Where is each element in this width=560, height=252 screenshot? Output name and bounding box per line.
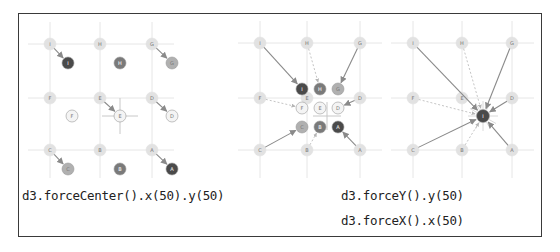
node-i: I (62, 57, 74, 69)
svg-text:I: I (301, 86, 302, 92)
node-c: C (296, 121, 308, 133)
ghost-node: D (146, 92, 158, 104)
ghost-node: A (506, 144, 518, 156)
node-f: F (66, 110, 78, 122)
ghost-node: H (456, 37, 468, 49)
ghost-node: H (94, 38, 106, 50)
ghost-node: D (354, 92, 366, 104)
svg-text:F: F (301, 105, 304, 111)
force-arrow (156, 102, 166, 111)
ghost-node: I (44, 38, 56, 50)
ghost-node: I (254, 37, 266, 49)
node-h: H (114, 57, 126, 69)
force-arrow (309, 49, 318, 82)
panel-force-xy-collapse: IHGFEDCBAI (391, 21, 534, 178)
svg-text:C: C (411, 147, 415, 153)
node-b: B (114, 163, 126, 175)
node-i: I (296, 83, 308, 95)
svg-text:G: G (150, 41, 154, 47)
svg-text:I: I (412, 40, 413, 46)
node-h: H (314, 83, 326, 95)
svg-text:E: E (318, 105, 321, 111)
force-arrow (266, 99, 295, 106)
ghost-node: C (254, 144, 266, 156)
ghost-node: D (506, 92, 518, 104)
svg-text:D: D (358, 95, 362, 101)
svg-text:F: F (49, 95, 52, 101)
svg-text:B: B (460, 147, 464, 153)
force-arrow (418, 119, 475, 147)
svg-text:H: H (98, 41, 102, 47)
svg-text:A: A (358, 147, 362, 153)
node-g: G (332, 83, 344, 95)
svg-text:B: B (318, 124, 322, 130)
svg-text:A: A (336, 124, 340, 130)
force-arrow (310, 133, 317, 145)
ghost-node: H (301, 37, 313, 49)
svg-text:C: C (258, 147, 262, 153)
svg-text:B: B (305, 147, 309, 153)
svg-text:A: A (150, 147, 154, 153)
node-d: D (332, 102, 344, 114)
svg-text:E: E (98, 95, 101, 101)
ghost-node: G (506, 37, 518, 49)
node-d: D (166, 110, 178, 122)
force-arrow (54, 154, 63, 164)
force-arrow (343, 132, 356, 146)
svg-text:I: I (49, 41, 50, 47)
svg-text:F: F (259, 95, 262, 101)
ghost-node: A (146, 144, 158, 156)
collapsed-node: I (477, 110, 490, 123)
node-e: E (114, 110, 126, 122)
force-arrow (156, 48, 167, 58)
svg-text:C: C (48, 147, 52, 153)
force-arrow (264, 47, 297, 83)
svg-text:G: G (170, 60, 174, 66)
svg-text:B: B (98, 147, 102, 153)
panel-force-center: IHGFEDCBAIHGFEDCBA (28, 22, 178, 178)
svg-text:F: F (412, 95, 415, 101)
svg-text:D: D (336, 105, 340, 111)
svg-text:G: G (358, 40, 362, 46)
starburst-ray (489, 120, 496, 124)
svg-text:B: B (118, 166, 122, 172)
node-g: G (166, 57, 178, 69)
ghost-node: I (407, 37, 419, 49)
svg-text:G: G (510, 40, 514, 46)
force-arrow (104, 102, 114, 111)
force-arrow (341, 48, 357, 82)
ghost-node: B (301, 144, 313, 156)
force-diagrams: IHGFEDCBAIHGFEDCBA IHGFEDCBAIHGFEDCBA IH… (0, 0, 560, 252)
force-arrow (156, 154, 167, 164)
ghost-node: F (44, 92, 56, 104)
svg-text:H: H (318, 86, 322, 92)
ghost-node: A (354, 144, 366, 156)
svg-text:E: E (118, 113, 121, 119)
svg-text:D: D (150, 95, 154, 101)
svg-text:A: A (510, 147, 514, 153)
panel-force-xy-cluster: IHGFEDCBAIHGFEDCBA (238, 21, 382, 178)
force-arrow (417, 47, 477, 110)
caption-force-center: d3.forceCenter().x(50).y(50) (22, 188, 224, 203)
node-a: A (166, 163, 178, 175)
ghost-node: F (254, 92, 266, 104)
force-arrow (490, 101, 507, 112)
caption-force-y: d3.forceY().y(50) (341, 188, 464, 203)
ghost-node: C (44, 144, 56, 156)
svg-text:D: D (510, 95, 514, 101)
svg-text:D: D (170, 113, 174, 119)
svg-text:I: I (259, 40, 260, 46)
svg-text:I: I (67, 60, 68, 66)
node-a: A (332, 121, 344, 133)
node-c: C (62, 163, 74, 175)
node-b: B (314, 121, 326, 133)
force-arrow (488, 122, 508, 145)
ghost-node: B (94, 144, 106, 156)
force-arrow (54, 48, 63, 58)
svg-text:E: E (305, 95, 308, 101)
caption-force-x: d3.forceX().x(50) (341, 213, 464, 228)
svg-text:H: H (118, 60, 122, 66)
force-arrow (265, 130, 296, 147)
svg-text:C: C (66, 166, 70, 172)
svg-text:H: H (305, 40, 309, 46)
